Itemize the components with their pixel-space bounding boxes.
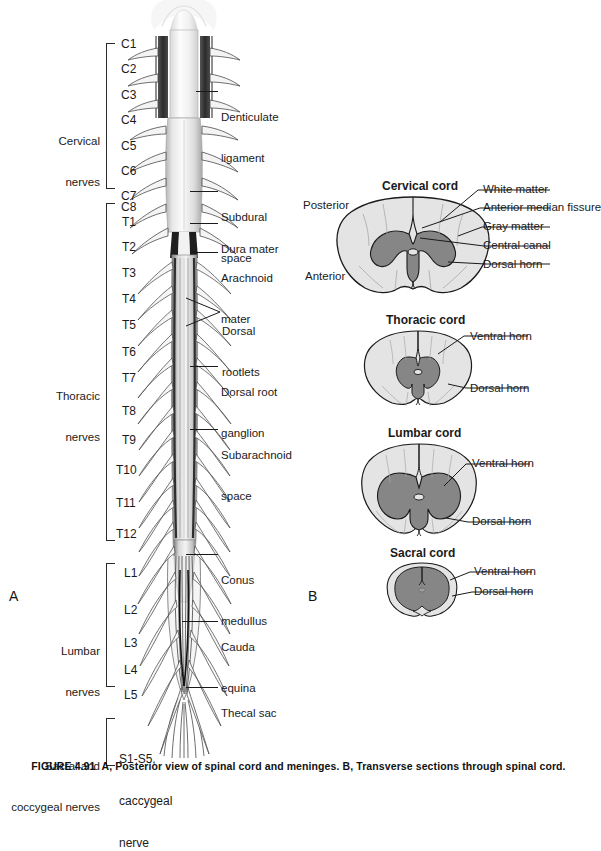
callout-cauda-equina-line1: Cauda [221,641,256,655]
callout-dorsal-root-ganglion-line1: Dorsal root [221,386,277,400]
leader-thecal-sac [186,687,218,688]
segment-label-l5: L5 [124,689,137,703]
segment-label-c1: C1 [121,38,136,52]
leader-cauda-equina [182,621,218,622]
callout-dorsal-horn-thoracic: Dorsal horn [470,382,529,396]
group-label-cervical: Cervical nerves [28,108,100,216]
sacral-line-2: caccygeal [119,794,172,808]
segment-label-c2: C2 [121,63,136,77]
callout-dorsal-horn-lumbar: Dorsal horn [472,515,531,529]
figure-caption-number: FIGURE 4.91 [31,760,95,772]
figure-caption-text: A, Posterior view of spinal cord and men… [102,760,566,772]
callout-conus-medullus-line1: Conus [221,574,267,588]
panel-a-letter-text: A [9,588,18,604]
group-sacral-line2: coccygeal nerves [2,801,100,815]
callout-white-matter: White matter [483,183,548,197]
callout-dorsal-rootlets-line1: Dorsal [222,325,260,339]
dura-upper-thoracic [170,232,198,258]
segment-label-c4: C4 [121,114,136,128]
segment-label-c8: C8 [121,201,136,215]
cord-cervical-upper [170,30,198,118]
segment-label-t9: T9 [122,434,136,448]
leader-denticulate-ligament [196,91,218,92]
segment-label-t8: T8 [122,405,136,419]
leader-dorsal-rootlets [186,296,222,328]
callout-anterior-median-fissure: Anterior median fissure [483,201,601,215]
segment-label-l4: L4 [124,664,137,678]
group-label-thoracic: Thoracic nerves [28,363,100,471]
callout-dorsal-horn-sacral: Dorsal horn [474,585,533,599]
central-canal-sacral [419,588,425,592]
group-lumbar-line1: Lumbar [28,645,100,659]
group-thoracic-line2: nerves [28,431,100,445]
figure-caption: FIGURE 4.91 A, Posterior view of spinal … [0,760,597,773]
segment-label-t12: T12 [116,528,137,542]
leader-conus-medullus [186,554,218,555]
panel-b-letter-text: B [308,588,317,604]
leader-subdural-space [190,191,218,192]
callout-denticulate-ligament-line2: ligament [221,152,279,166]
callout-thecal-sac: Thecal sac [221,680,277,748]
segment-label-t2: T2 [122,241,136,255]
bracket-cervical [106,43,115,189]
sacral-line-3: nerve [119,836,172,850]
callout-denticulate-ligament-line1: Denticulate [221,111,279,125]
callout-subarachnoid-space-line2: space [221,490,292,504]
callout-dorsal-horn-cervical: Dorsal horn [483,258,542,272]
callout-subarachnoid-space-line1: Subarachnoid [221,449,292,463]
segment-label-t1: T1 [122,216,136,230]
callout-subarachnoid-space: Subarachnoid space [221,422,292,530]
segment-label-t4: T4 [122,293,136,307]
orientation-label-posterior: Posterior [303,199,349,213]
group-cervical-line1: Cervical [28,135,100,149]
section-title-sacral-cord: Sacral cord [390,547,455,561]
group-label-sacral: Sacral and coccygeal nerves [2,733,100,841]
panel-a-letter: A [9,588,18,604]
callout-ventral-horn-sacral: Ventral horn [474,565,536,579]
leader-subarachnoid-space [190,429,218,430]
bracket-thoracic [106,203,115,541]
segment-label-c5: C5 [121,140,136,154]
callout-central-canal: Central canal [483,239,551,253]
segment-label-l2: L2 [124,604,137,618]
callout-denticulate-ligament: Denticulate ligament [221,84,279,192]
brainstem-region [151,0,217,34]
segment-label-l1: L1 [124,567,137,581]
leader-dorsal-root-ganglion [190,366,218,367]
segment-label-t3: T3 [122,267,136,281]
section-title-thoracic-cord: Thoracic cord [386,314,465,328]
segment-label-t11: T11 [116,497,136,511]
segment-label-c6: C6 [121,165,136,179]
group-thoracic-line1: Thoracic [28,390,100,404]
callout-thecal-sac-line1: Thecal sac [221,707,277,721]
segment-label-t10: T10 [116,464,137,478]
callout-ventral-horn-lumbar: Ventral horn [472,457,534,471]
callout-gray-matter: Gray matter [483,220,544,234]
leader-arachnoid-mater [190,252,218,253]
segment-label-t6: T6 [122,346,136,360]
orientation-label-anterior: Anterior [305,270,345,284]
segment-label-t5: T5 [122,319,136,333]
bracket-sacral [106,718,115,766]
segment-label-c3: C3 [121,89,136,103]
callout-ventral-horn-thoracic: Ventral horn [470,330,532,344]
bracket-lumbar [106,563,115,687]
segment-label-l3: L3 [124,637,137,651]
section-title-lumbar-cord: Lumbar cord [388,427,461,441]
callout-arachnoid-mater-line1: Arachnoid [221,272,273,286]
segment-label-sacral-block: S1-S5, caccygeal nerve [119,724,172,851]
group-label-lumbar: Lumbar nerves [28,618,100,726]
group-lumbar-line2: nerves [28,686,100,700]
panel-b-letter: B [308,588,317,604]
group-cervical-line2: nerves [28,176,100,190]
leader-dura-mater [190,223,218,224]
segment-label-t7: T7 [122,372,136,386]
